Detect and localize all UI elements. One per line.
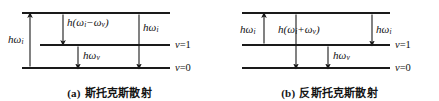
label-excitation-a: hωi [143,22,159,34]
caption-tag-b: (b) [281,87,295,99]
label-scattered-photon-a: h(ωi−ωv) [67,17,109,29]
label-relaxation-b: hωi [376,24,392,36]
level-label-v0-a: v=0 [175,63,191,74]
label-incident-photon-b: hωi [240,24,256,36]
panel-anti-stokes: hωi h(ωi+ωv) hωv hωi v=1 v=0 (b) 反斯托克斯散射 [220,0,439,101]
caption-tag-a: (a) [67,87,80,99]
label-vibrational-quantum-b: hωv [333,50,350,62]
caption-text-b: 反斯托克斯散射 [299,87,377,100]
raman-scattering-figure: hωi h(ωi−ωv) hωv hωi v=1 v=0 (a) 斯托克斯散射 [0,0,439,101]
caption-panel-b: (b) 反斯托克斯散射 [220,84,439,100]
label-incident-photon-a: hωi [8,34,24,46]
caption-text-a: 斯托克斯散射 [85,87,152,100]
level-label-v1-b: v=1 [395,40,411,51]
label-vibrational-quantum-a: hωv [83,50,100,62]
caption-panel-a: (a) 斯托克斯散射 [0,84,219,100]
label-scattered-photon-b: h(ωi+ωv) [278,24,320,36]
level-label-v0-b: v=0 [395,63,411,74]
level-label-v1-a: v=1 [175,40,191,51]
panel-stokes: hωi h(ωi−ωv) hωv hωi v=1 v=0 (a) 斯托克斯散射 [0,0,219,101]
